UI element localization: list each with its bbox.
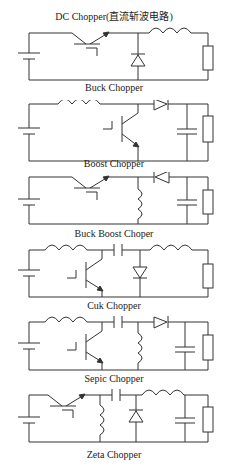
cuk-chopper-circuit xyxy=(0,243,228,299)
caption-buck: Buck Chopper xyxy=(0,82,228,93)
diode-icon xyxy=(133,267,147,278)
dc-source-icon xyxy=(18,250,40,297)
inductor-icon xyxy=(45,245,87,250)
caption-sepic: Sepic Chopper xyxy=(0,373,228,384)
transistor-switch-icon xyxy=(103,104,139,161)
dc-source-icon xyxy=(18,322,40,370)
capacitor-icon xyxy=(114,316,122,328)
zeta-chopper-circuit xyxy=(0,388,228,448)
load-resistor-icon xyxy=(203,46,213,70)
dc-source-icon xyxy=(18,33,40,80)
capacitor-icon xyxy=(177,129,197,134)
diode-icon xyxy=(154,172,169,183)
capacitor-icon xyxy=(112,389,120,401)
inductor-icon xyxy=(58,100,100,104)
load-resistor-icon xyxy=(203,264,213,288)
load-resistor-icon xyxy=(203,407,213,432)
load-resistor-icon xyxy=(203,116,213,142)
transistor-switch-icon xyxy=(72,176,109,200)
diode-icon xyxy=(131,54,145,66)
inductor-icon xyxy=(150,245,192,250)
inductor-icon xyxy=(142,390,184,395)
inductor-icon xyxy=(100,405,104,435)
caption-buck-boost: Buck Boost Choper xyxy=(0,228,228,239)
buck-chopper-circuit xyxy=(0,26,228,86)
capacitor-icon xyxy=(177,200,197,205)
caption-boost: Boost Chopper xyxy=(0,158,228,169)
inductor-icon xyxy=(138,333,142,363)
inductor-icon xyxy=(138,189,142,219)
diode-icon xyxy=(154,316,168,328)
diagram-title: DC Chopper(直流斩波电路) xyxy=(0,8,228,23)
sepic-chopper-circuit xyxy=(0,316,228,376)
inductor-icon xyxy=(149,28,191,33)
transistor-switch-icon xyxy=(67,250,103,297)
diode-icon xyxy=(129,410,143,422)
dc-source-icon xyxy=(18,104,40,161)
capacitor-icon xyxy=(114,244,122,256)
load-resistor-icon xyxy=(203,335,213,360)
caption-zeta: Zeta Chopper xyxy=(0,449,228,460)
transistor-switch-icon xyxy=(67,322,103,370)
caption-cuk: Cuk Chopper xyxy=(0,300,228,311)
dc-source-icon xyxy=(18,395,40,442)
diode-icon xyxy=(154,100,168,110)
dc-source-icon xyxy=(18,177,40,224)
transistor-switch-icon xyxy=(48,394,85,418)
capacitor-icon xyxy=(175,347,195,352)
inductor-icon xyxy=(45,317,87,322)
capacitor-icon xyxy=(175,418,195,423)
load-resistor-icon xyxy=(203,190,213,214)
transistor-switch-icon xyxy=(72,32,109,56)
